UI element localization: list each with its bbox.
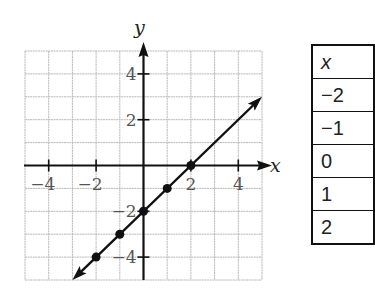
table-row: 1 [312, 178, 374, 211]
table-row: 2 [312, 211, 374, 245]
coordinate-graph: −4−22442−2−4 x y [0, 0, 300, 290]
table-cell-x: 2 [312, 211, 374, 245]
table-cell-x: 1 [312, 178, 374, 211]
axes [24, 42, 272, 280]
table-header-x: x [312, 45, 374, 79]
table-cell-x: −2 [312, 79, 374, 112]
y-axis-label: y [133, 16, 145, 38]
x-axis-label: x [270, 154, 281, 176]
table-row: −1 [312, 112, 374, 145]
x-tick-label: −4 [30, 174, 55, 194]
y-tick-label: 4 [126, 64, 137, 84]
y-axis-arrow-icon [139, 42, 149, 57]
value-table: x −2−1012 [311, 44, 375, 245]
x-tick-label: −2 [78, 174, 103, 194]
x-tick-label: 4 [233, 174, 244, 194]
xy-table: x −2−1012 [311, 44, 375, 245]
data-point [139, 207, 148, 216]
table-row: 0 [312, 145, 374, 178]
table-header-row: x [312, 45, 374, 79]
data-point [115, 230, 124, 239]
y-tick-label: 2 [126, 110, 137, 130]
table-body: −2−1012 [312, 79, 374, 245]
x-tick-label: 2 [185, 174, 196, 194]
table-row: −2 [312, 79, 374, 112]
table-cell-x: −1 [312, 112, 374, 145]
data-point [92, 253, 101, 262]
y-tick-label: −2 [111, 201, 136, 221]
y-tick-label: −4 [111, 247, 136, 267]
data-point [163, 184, 172, 193]
table-cell-x: 0 [312, 145, 374, 178]
data-point [186, 161, 195, 170]
